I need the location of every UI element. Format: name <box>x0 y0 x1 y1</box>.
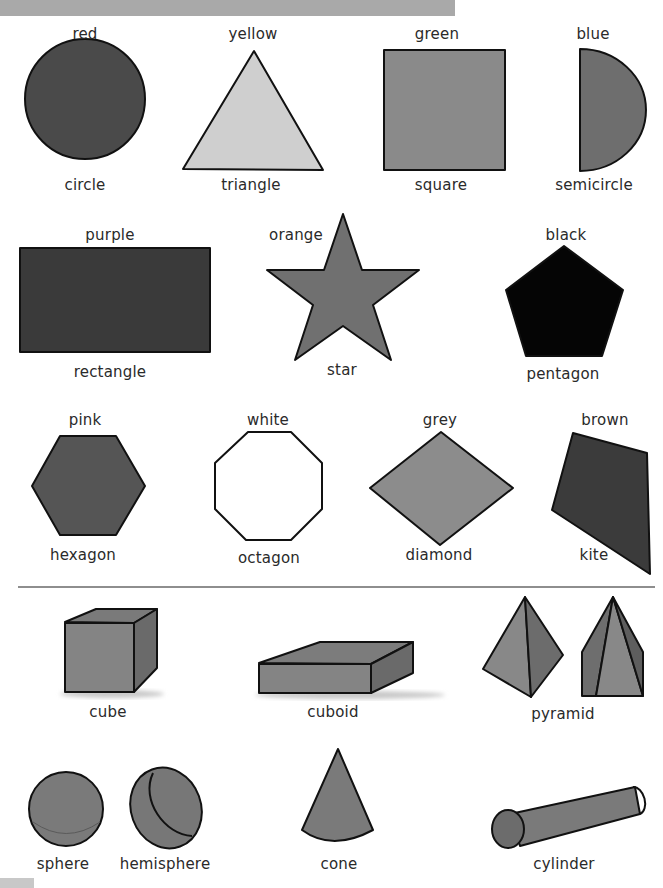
color-label-red: red <box>72 25 97 43</box>
cuboid-shape <box>255 642 445 699</box>
shape-label-diamond: diamond <box>405 546 472 564</box>
shape-label-star: star <box>327 361 357 379</box>
triangle-shape <box>183 51 323 170</box>
color-label-orange: orange <box>269 226 323 244</box>
solid-label-cone: cone <box>321 855 358 873</box>
hemisphere-shape <box>119 758 213 859</box>
shape-label-semicircle: semicircle <box>555 176 633 194</box>
solid-label-pyramid: pyramid <box>531 705 594 723</box>
shape-label-kite: kite <box>580 546 609 564</box>
hexagon-shape <box>32 436 145 535</box>
shape-label-square: square <box>415 176 467 194</box>
semicircle-shape <box>580 49 646 171</box>
cone-shape <box>302 749 373 841</box>
pentagon-shape <box>506 246 623 356</box>
color-label-purple: purple <box>85 226 134 244</box>
solid-label-sphere: sphere <box>37 855 89 873</box>
pyramid-triangular-shape <box>483 597 563 697</box>
pyramid-square-shape <box>582 597 643 696</box>
rectangle-shape <box>20 248 210 352</box>
shape-label-circle: circle <box>64 176 105 194</box>
solid-label-cylinder: cylinder <box>533 855 594 873</box>
color-label-green: green <box>415 25 459 43</box>
circle-shape <box>25 39 145 159</box>
shape-label-octagon: octagon <box>238 549 300 567</box>
diamond-shape <box>370 432 513 545</box>
shape-label-hexagon: hexagon <box>50 546 116 564</box>
sphere-shape <box>29 772 103 846</box>
color-label-black: black <box>546 226 587 244</box>
shapes-artwork <box>0 0 663 888</box>
square-shape <box>384 50 505 170</box>
solid-label-hemisphere: hemisphere <box>120 855 211 873</box>
solid-label-cuboid: cuboid <box>307 703 358 721</box>
color-label-blue: blue <box>576 25 609 43</box>
color-label-pink: pink <box>69 411 102 429</box>
color-label-yellow: yellow <box>228 25 277 43</box>
shape-label-pentagon: pentagon <box>526 365 599 383</box>
cylinder-shape <box>492 787 645 848</box>
solid-label-cube: cube <box>89 703 126 721</box>
cube-shape <box>60 609 164 698</box>
section-divider <box>18 586 655 588</box>
shape-label-rectangle: rectangle <box>74 363 147 381</box>
color-label-brown: brown <box>581 411 628 429</box>
color-label-grey: grey <box>423 411 457 429</box>
color-label-white: white <box>247 411 289 429</box>
shape-label-triangle: triangle <box>221 176 280 194</box>
octagon-shape <box>215 432 322 540</box>
